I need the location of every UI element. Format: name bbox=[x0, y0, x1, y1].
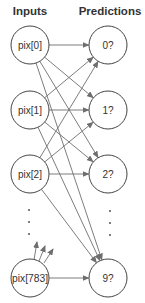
prediction-label: 0? bbox=[102, 40, 114, 51]
neural-network-diagram: Inputs Predictions pix[0] pix[1] pix[2] … bbox=[0, 0, 145, 303]
connection-arrow bbox=[38, 127, 100, 260]
ellipsis-dot bbox=[28, 221, 30, 223]
connection-arrow bbox=[41, 189, 96, 262]
prediction-label: 9? bbox=[102, 273, 114, 284]
ellipsis-dot bbox=[28, 209, 30, 211]
input-node-0: pix[0] bbox=[11, 26, 49, 64]
ellipsis-dot bbox=[28, 233, 30, 235]
prediction-node-9: 9? bbox=[89, 259, 127, 297]
prediction-label: 1? bbox=[102, 105, 114, 116]
predictions-header: Predictions bbox=[79, 5, 142, 17]
input-label: pix[1] bbox=[18, 105, 42, 116]
prediction-label: 2? bbox=[102, 169, 114, 180]
prediction-node-2: 2? bbox=[89, 155, 127, 193]
input-label: pix[2] bbox=[18, 169, 42, 180]
input-node-1: pix[1] bbox=[11, 91, 49, 129]
inputs-header: Inputs bbox=[13, 5, 48, 17]
prediction-node-1: 1? bbox=[89, 91, 127, 129]
connection-arrow bbox=[39, 246, 45, 261]
connection-arrow bbox=[44, 249, 53, 263]
input-label: pix[783] bbox=[12, 273, 48, 284]
ellipsis-dot bbox=[109, 210, 111, 212]
prediction-node-0: 0? bbox=[89, 26, 127, 64]
input-node-2: pix[2] bbox=[11, 155, 49, 193]
input-label: pix[0] bbox=[18, 40, 42, 51]
ellipsis-dot bbox=[109, 222, 111, 224]
input-node-783: pix[783] bbox=[11, 259, 49, 297]
ellipsis-dot bbox=[109, 234, 111, 236]
ellipsis-dots bbox=[28, 209, 111, 236]
connection-arrow bbox=[34, 242, 37, 260]
